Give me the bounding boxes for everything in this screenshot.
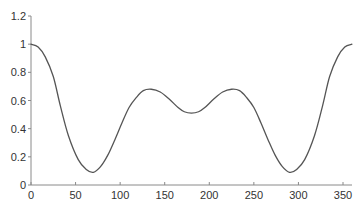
y-tick-label: 0.2: [11, 151, 26, 163]
data-series-line: [31, 44, 352, 172]
x-tick-label: 0: [28, 189, 34, 201]
y-tick-label: 0.8: [11, 66, 26, 78]
y-tick-label: 1: [20, 38, 26, 50]
x-tick-label: 100: [111, 189, 129, 201]
y-tick-label: 0.6: [11, 95, 26, 107]
y-axis: 00.20.40.60.811.2: [11, 10, 31, 191]
y-tick-label: 0: [20, 179, 26, 191]
x-tick-label: 250: [245, 189, 263, 201]
y-ticks: 00.20.40.60.811.2: [11, 10, 31, 191]
x-tick-label: 150: [156, 189, 174, 201]
x-axis: 050100150200250300350: [28, 182, 352, 201]
plot-area: [31, 44, 352, 172]
x-tick-label: 50: [69, 189, 81, 201]
y-tick-label: 1.2: [11, 10, 26, 22]
x-tick-label: 350: [334, 189, 352, 201]
line-chart: 00.20.40.60.811.2 050100150200250300350: [0, 0, 361, 213]
x-tick-label: 200: [200, 189, 218, 201]
y-tick-label: 0.4: [11, 123, 26, 135]
x-tick-label: 300: [289, 189, 307, 201]
